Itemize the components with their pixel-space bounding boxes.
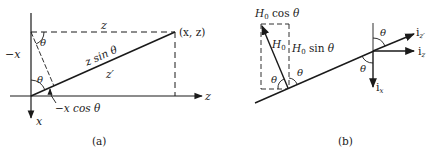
- caption-a: (a): [92, 135, 106, 147]
- label-i-z-prime: iz′: [416, 26, 425, 40]
- label-neg-x-cos-theta: −x cos θ: [55, 102, 101, 114]
- figure-canvas: z (x, z) −x θ θ z sin θ z′ −x cos θ x z …: [0, 0, 438, 155]
- theta-arc-right: [289, 78, 297, 84]
- figure-a: z (x, z) −x θ θ z sin θ z′ −x cos θ x z …: [5, 13, 211, 147]
- label-theta-left: θ: [271, 74, 277, 85]
- figure-b: H0 cos θ H0 H0 sin θ θ θ θ θ iz′ iz ix (…: [254, 7, 426, 147]
- label-theta-top: θ: [40, 37, 46, 48]
- label-z-prime: z′: [105, 68, 115, 80]
- theta-arc-axes-left: [362, 56, 373, 63]
- label-h0-sin: H0 sin θ: [291, 42, 335, 56]
- z-prime-axis-line: [31, 32, 175, 96]
- theta-arc-axes-top: [373, 38, 385, 46]
- label-x-axis: x: [36, 115, 43, 128]
- label-i-x: ix: [376, 81, 384, 95]
- label-neg-x: −x: [5, 48, 21, 61]
- label-i-z: iz: [418, 45, 426, 59]
- label-point-xz: (x, z): [179, 26, 205, 38]
- label-h0: H0: [271, 38, 286, 52]
- theta-arc-left: [278, 79, 284, 89]
- label-theta-axes-top: θ: [380, 27, 386, 38]
- label-z-axis: z: [204, 90, 211, 103]
- label-h0-cos: H0 cos θ: [254, 7, 300, 21]
- caption-b: (b): [338, 135, 353, 147]
- label-theta-axes-left: θ: [360, 63, 366, 74]
- label-z-top: z: [100, 19, 107, 32]
- label-theta-origin: θ: [37, 74, 43, 85]
- label-theta-right: θ: [297, 67, 303, 78]
